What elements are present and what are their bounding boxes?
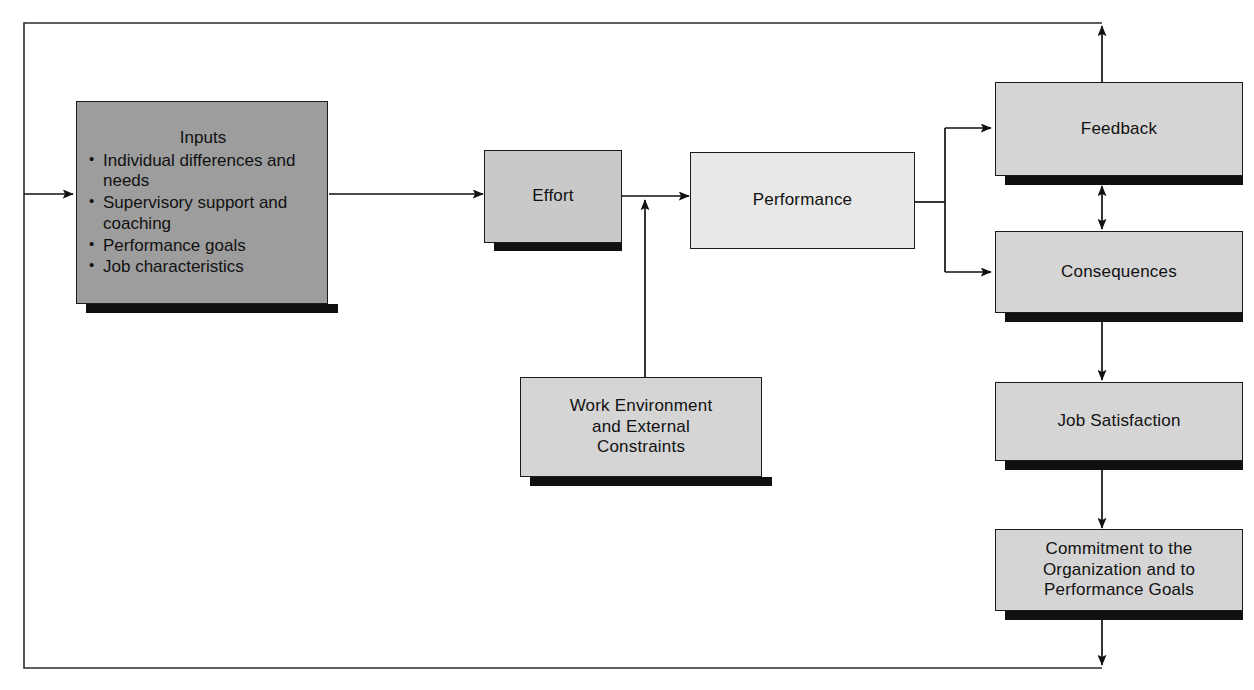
performance-label: Performance <box>753 190 853 211</box>
commitment-line: Organization and to <box>1043 560 1195 579</box>
work-environment-line: Work Environment <box>570 396 713 415</box>
inputs-bullet-item: Individual differences and needs <box>89 151 317 192</box>
diagram-canvas: Inputs Individual differences and needs … <box>0 0 1254 690</box>
node-feedback[interactable]: Feedback <box>995 82 1243 176</box>
connector-performance-split <box>915 128 991 272</box>
inputs-bullet-item: Performance goals <box>89 236 317 257</box>
inputs-bullet-list: Individual differences and needs Supervi… <box>89 151 317 278</box>
node-inputs[interactable]: Inputs Individual differences and needs … <box>76 101 328 304</box>
commitment-line: Performance Goals <box>1044 580 1194 599</box>
inputs-bullet-item: Supervisory support and coaching <box>89 193 317 234</box>
node-job-satisfaction[interactable]: Job Satisfaction <box>995 382 1243 461</box>
feedback-shadow <box>1005 176 1243 185</box>
feedback-label: Feedback <box>1081 119 1157 140</box>
work-environment-line: and External <box>592 417 690 436</box>
effort-label: Effort <box>532 186 574 207</box>
consequences-shadow <box>1005 313 1243 322</box>
node-commitment[interactable]: Commitment to the Organization and to Pe… <box>995 529 1243 611</box>
commitment-line: Commitment to the <box>1045 539 1192 558</box>
node-consequences[interactable]: Consequences <box>995 231 1243 313</box>
node-effort[interactable]: Effort <box>484 150 622 243</box>
inputs-content: Inputs Individual differences and needs … <box>77 120 327 285</box>
inputs-shadow <box>86 304 338 313</box>
work-environment-shadow <box>530 477 772 486</box>
work-environment-line: Constraints <box>597 437 685 456</box>
job-satisfaction-shadow <box>1005 461 1243 470</box>
consequences-label: Consequences <box>1061 262 1177 283</box>
inputs-bullet-item: Job characteristics <box>89 257 317 278</box>
node-work-environment[interactable]: Work Environment and External Constraint… <box>520 377 762 477</box>
commitment-label: Commitment to the Organization and to Pe… <box>1043 539 1195 601</box>
effort-shadow <box>494 243 622 251</box>
node-performance[interactable]: Performance <box>690 152 915 249</box>
inputs-title: Inputs <box>89 128 317 149</box>
job-satisfaction-label: Job Satisfaction <box>1057 411 1180 432</box>
work-environment-label: Work Environment and External Constraint… <box>570 396 713 458</box>
commitment-shadow <box>1005 611 1243 620</box>
